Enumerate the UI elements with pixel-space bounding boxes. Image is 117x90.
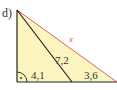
- base-left-label: 4,1: [31, 70, 45, 81]
- right-angle-dot-icon: [20, 77, 22, 79]
- triangle-figure: [0, 0, 117, 90]
- part-label: d): [2, 8, 12, 19]
- hypotenuse-label: x: [69, 34, 73, 45]
- base-right-label: 3,6: [84, 70, 98, 81]
- inner-segment-label: 7,2: [55, 55, 69, 66]
